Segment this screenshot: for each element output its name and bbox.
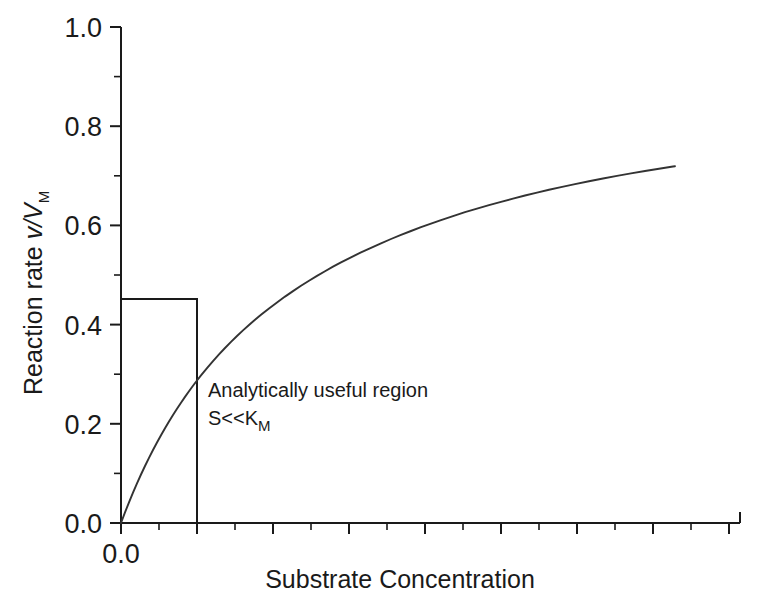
michaelis-menten-chart: 0.0 0.2 0.4 0.6 0.8 1.0 0.0 Reaction rat…: [0, 0, 764, 606]
y-tick-label-4: 0.8: [64, 112, 102, 142]
y-axis-title-subscript: M: [35, 191, 52, 204]
y-tick-label-5: 1.0: [64, 13, 102, 43]
y-tick-label-2: 0.4: [64, 311, 102, 341]
annotation-line-2-subscript: M: [258, 417, 271, 434]
y-axis-title-main: Reaction rate: [19, 239, 47, 395]
y-tick-label-1: 0.2: [64, 410, 102, 440]
x-axis-title: Substrate Concentration: [265, 565, 535, 593]
x-tick-labels: 0.0: [102, 539, 140, 569]
x-tick-label-0: 0.0: [102, 539, 140, 569]
chart-figure: 0.0 0.2 0.4 0.6 0.8 1.0 0.0 Reaction rat…: [0, 0, 764, 606]
y-tick-label-0: 0.0: [64, 509, 102, 539]
y-tick-label-3: 0.6: [64, 211, 102, 241]
y-axis-title-symbol: v/V: [19, 201, 47, 239]
annotation-line-1: Analytically useful region: [208, 379, 428, 401]
annotation-line-2-main: S<<K: [208, 407, 259, 429]
chart-background: [0, 0, 764, 606]
